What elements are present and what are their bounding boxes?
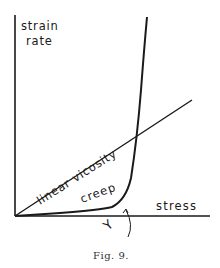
arrow-head-icon: [123, 209, 128, 213]
creep-label: creep: [78, 180, 118, 206]
y-axis-label-line1: strain: [21, 19, 59, 33]
figure-caption: Fig. 9.: [93, 250, 129, 261]
yield-arrow: [126, 210, 131, 237]
figure-diagram: strain rate stress linear vicosity creep…: [0, 0, 220, 268]
linear-viscosity-label: linear vicosity: [34, 146, 119, 207]
yield-marker-label: Y: [100, 217, 117, 234]
x-axis-label: stress: [156, 199, 197, 213]
y-axis-label-line2: rate: [26, 34, 53, 48]
